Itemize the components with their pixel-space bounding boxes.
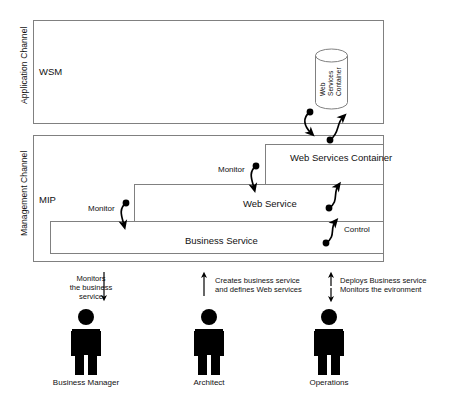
business-manager-label: Business Manager <box>53 378 120 387</box>
cylinder-label-line-3: Container <box>335 67 342 96</box>
actor-business-manager: Monitors the business service Business M… <box>53 272 120 387</box>
business-manager-note-line-1: Monitors <box>76 274 105 283</box>
management-channel-vertical-label: Management Channel <box>19 151 29 236</box>
web-services-container-label: Web Services Container <box>290 152 392 163</box>
architect-label: Architect <box>193 378 225 387</box>
operations-note-line-2: Monitors the evironment <box>340 285 422 294</box>
cylinder-top <box>316 49 348 62</box>
architect-note-line-1: Creates business service <box>215 276 300 285</box>
arrow-wsc-to-cylinder <box>330 117 343 140</box>
business-manager-note-line-3: service <box>79 292 103 301</box>
web-services-container-cylinder: Web Services Container <box>316 49 348 109</box>
actor-operations: Deploys Business service Monitors the ev… <box>309 275 426 387</box>
web-service-label: Web Service <box>243 198 297 209</box>
business-service-label: Business Service <box>185 235 258 246</box>
cylinder-label-line-2: Services <box>327 70 334 96</box>
arrow-control-lower <box>326 222 335 243</box>
application-channel-vertical-label: Application Channel <box>19 26 29 104</box>
diagram-canvas: Application Channel WSM Web Services Con… <box>0 0 457 400</box>
operations-note-line-1: Deploys Business service <box>340 276 427 285</box>
actor-architect: Creates business service and defines Web… <box>193 275 302 387</box>
monitor-business-service-label: Monitor <box>88 204 115 213</box>
monitor-web-service-label: Monitor <box>218 165 245 174</box>
wsm-label: WSM <box>39 66 62 77</box>
business-manager-figure <box>71 309 101 375</box>
business-manager-note-line-2: the business <box>70 283 113 292</box>
operations-figure <box>314 309 344 375</box>
web-services-container-box <box>266 145 384 185</box>
cross-channel-arrows <box>305 109 343 144</box>
mip-label: MIP <box>39 194 56 205</box>
architect-note-line-2: and defines Web services <box>215 285 302 294</box>
control-label: Control <box>344 225 370 234</box>
operations-label: Operations <box>309 378 348 387</box>
architecture-diagram: Application Channel WSM Web Services Con… <box>0 0 457 400</box>
relation-arrows: Monitor Monitor Control <box>88 163 370 247</box>
arrow-control-upper <box>329 186 338 208</box>
cylinder-label-line-1: Web <box>319 82 326 96</box>
architect-figure <box>194 309 224 375</box>
management-channel-group: Management Channel MIP Web Services Cont… <box>19 136 392 262</box>
